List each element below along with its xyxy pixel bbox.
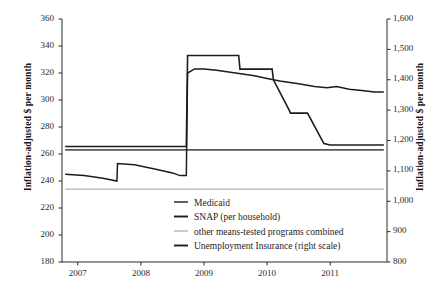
legend-label-3: Unemployment Insurance (right scale)	[194, 241, 340, 252]
x-axis-tick-label: 2009	[181, 268, 227, 278]
series-line-1	[65, 69, 384, 181]
y-axis-left-tick-label: 260	[20, 148, 54, 158]
y-axis-left-tick-label: 340	[20, 40, 54, 50]
y-axis-right-tick-label: 1,400	[393, 73, 433, 83]
y-axis-left-tick-label: 200	[20, 229, 54, 239]
x-axis-tick-label: 2008	[118, 268, 164, 278]
legend-label-2: other means-tested programs combined	[194, 227, 344, 237]
y-axis-right-tick-label: 1,600	[393, 13, 433, 23]
y-axis-left-tick-label: 240	[20, 175, 54, 185]
y-axis-left-tick-label: 360	[20, 13, 54, 23]
y-axis-right-tick-label: 1,300	[393, 104, 433, 114]
x-axis-tick-label: 2010	[244, 268, 290, 278]
legend-label-1: SNAP (per household)	[194, 212, 280, 223]
y-axis-right-tick-label: 1,500	[393, 43, 433, 53]
y-axis-left-tick-label: 320	[20, 67, 54, 77]
x-axis-tick-label: 2007	[55, 268, 101, 278]
x-axis-tick-label: 2011	[307, 268, 353, 278]
plot-area: MedicaidSNAP (per household)other means-…	[0, 0, 448, 289]
y-axis-left-tick-label: 180	[20, 256, 54, 266]
y-axis-right-tick-label: 1,100	[393, 164, 433, 174]
y-axis-right-tick-label: 1,000	[393, 195, 433, 205]
series-line-3	[65, 55, 384, 146]
y-axis-left-tick-label: 280	[20, 121, 54, 131]
y-axis-left-tick-label: 300	[20, 94, 54, 104]
y-axis-right-tick-label: 800	[393, 256, 433, 266]
legend-label-0: Medicaid	[194, 198, 230, 208]
y-axis-left-tick-label: 220	[20, 202, 54, 212]
y-axis-right-tick-label: 900	[393, 225, 433, 235]
y-axis-right-tick-label: 1,200	[393, 134, 433, 144]
chart-figure: Inflation-adjusted $ per month Inflation…	[0, 0, 448, 289]
